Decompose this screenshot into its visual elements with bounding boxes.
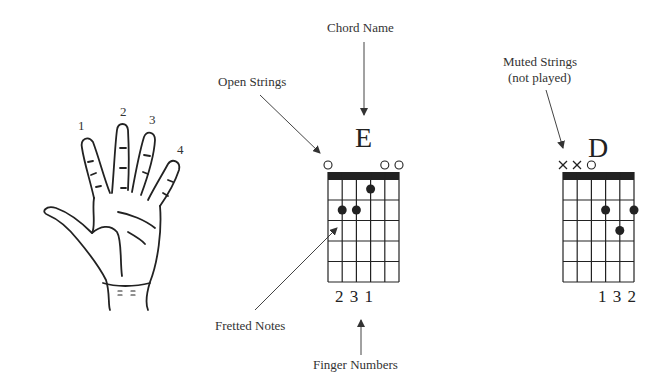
open-string-marker <box>381 161 389 169</box>
open-string-marker <box>324 161 332 169</box>
chord-name-label: Chord Name <box>327 20 394 35</box>
muted-strings-sublabel: (not played) <box>508 70 571 85</box>
chord-diagram-d <box>559 161 639 282</box>
fretted-dot <box>615 226 624 235</box>
muted-strings-label: Muted Strings <box>503 54 577 69</box>
open-string-marker <box>395 161 403 169</box>
finger-numbers-e: 2 3 1 <box>335 287 374 307</box>
finger-numbers-label: Finger Numbers <box>313 357 398 372</box>
muted-string-marker <box>559 161 567 169</box>
fretted-dot <box>630 206 639 215</box>
open-strings-label: Open Strings <box>218 74 286 89</box>
finger-label-1: 1 <box>78 118 85 134</box>
fretted-dot <box>338 206 347 215</box>
chord-diagram-e <box>324 161 403 282</box>
nut <box>563 172 634 180</box>
finger-numbers-d: 1 3 2 <box>598 287 637 307</box>
fretted-notes-arrow <box>255 228 337 310</box>
finger-label-4: 4 <box>177 142 184 158</box>
fretted-dot <box>366 185 375 194</box>
muted-strings-arrow <box>546 90 563 148</box>
fretted-dot <box>352 206 361 215</box>
chord-name-e: E <box>355 124 372 152</box>
nut <box>328 172 399 180</box>
muted-string-marker <box>573 161 581 169</box>
hand-icon <box>44 124 179 310</box>
finger-label-3: 3 <box>149 112 156 128</box>
finger-label-2: 2 <box>120 104 127 120</box>
fretted-notes-label: Fretted Notes <box>215 318 285 333</box>
open-strings-arrow <box>260 95 320 153</box>
chord-name-d: D <box>588 134 608 162</box>
fretted-dot <box>601 206 610 215</box>
